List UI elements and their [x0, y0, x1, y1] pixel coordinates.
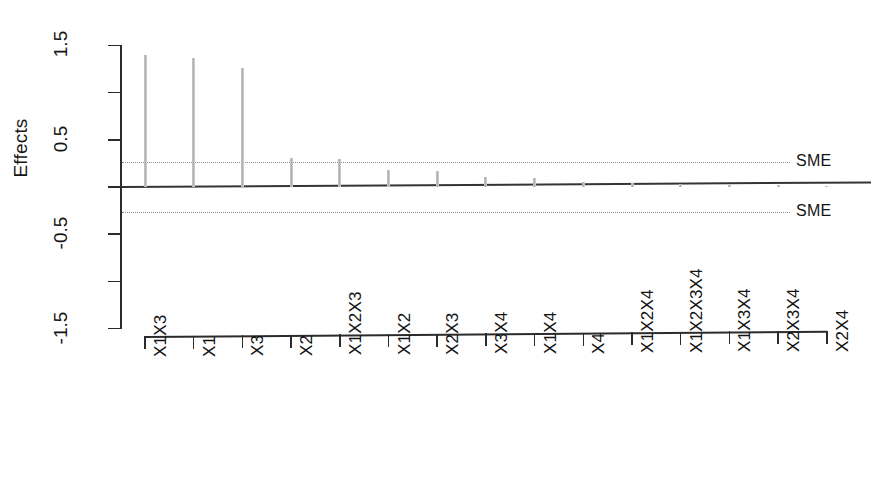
- x-axis-tick: [729, 331, 731, 344]
- x-axis-tick: [826, 331, 828, 344]
- sme-threshold-line: [122, 162, 790, 163]
- effect-bar: [728, 185, 731, 187]
- sme-threshold-line: [122, 212, 790, 213]
- effects-plot-figure: Effects 1.50.5-0.5-1.5 SMESMEX1X3X1X3X2X…: [0, 0, 881, 484]
- x-axis-tick-label: X1X4: [541, 312, 561, 354]
- x-axis-tick: [339, 334, 341, 347]
- x-axis-tick-label: X1: [200, 335, 220, 356]
- effect-bar: [387, 170, 390, 187]
- sme-threshold-label: SME: [796, 202, 832, 220]
- effect-bar: [533, 178, 536, 187]
- zero-reference-line: [122, 182, 871, 188]
- effect-bar: [192, 58, 195, 187]
- x-axis-tick: [388, 334, 390, 347]
- x-axis-tick: [144, 336, 146, 349]
- x-axis-tick-label: X2X3X4: [784, 288, 804, 352]
- effect-bar: [241, 68, 244, 187]
- x-axis-tick: [583, 333, 585, 346]
- x-axis-tick: [485, 333, 487, 346]
- x-axis-tick-label: X1X2: [395, 313, 415, 355]
- effect-bar: [825, 186, 828, 187]
- x-axis-tick-label: X1X2X3: [346, 292, 366, 356]
- x-axis-tick: [631, 332, 633, 345]
- sme-threshold-label: SME: [796, 152, 832, 170]
- x-axis-tick: [777, 331, 779, 344]
- x-axis-tick-label: X1X3X4: [735, 289, 755, 353]
- effect-bar: [484, 177, 487, 187]
- x-axis-tick-label: X4: [589, 332, 609, 353]
- x-axis-tick-label: X2X3: [443, 312, 463, 354]
- x-axis-tick: [680, 332, 682, 345]
- effect-bar: [631, 183, 634, 187]
- x-axis-tick-label: X1X3: [151, 315, 171, 357]
- x-axis-tick-label: X2X4: [833, 309, 853, 351]
- x-axis-tick-label: X3X4: [492, 312, 512, 354]
- x-axis-tick-label: X2: [297, 335, 317, 356]
- x-axis-tick-label: X1X2X4: [638, 290, 658, 354]
- effect-bar: [436, 171, 439, 187]
- x-axis-tick: [193, 336, 195, 349]
- effect-bar: [679, 184, 682, 187]
- effect-bar: [777, 185, 780, 187]
- effect-bar: [290, 158, 293, 187]
- effect-bar: [338, 159, 341, 187]
- x-axis-tick: [534, 333, 536, 346]
- x-axis-tick-label: X1X2X3X4: [687, 268, 707, 353]
- x-axis-tick: [290, 335, 292, 348]
- effect-bar: [582, 182, 585, 187]
- plot-area: SMESMEX1X3X1X3X2X1X2X3X1X2X2X3X3X4X1X4X4…: [0, 0, 881, 484]
- x-axis-tick: [242, 335, 244, 348]
- x-axis-tick-label: X3: [248, 335, 268, 356]
- x-axis-tick: [436, 334, 438, 347]
- effect-bar: [144, 55, 147, 187]
